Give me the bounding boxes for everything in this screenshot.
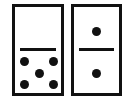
pip <box>92 69 101 78</box>
domino-left <box>12 4 64 96</box>
domino-right <box>71 4 122 96</box>
pip <box>20 57 29 66</box>
domino-left-divider <box>20 48 56 51</box>
pip <box>49 80 58 89</box>
pip <box>92 27 101 36</box>
pip <box>49 57 58 66</box>
pip <box>20 80 29 89</box>
domino-right-divider <box>79 48 114 51</box>
pip <box>35 69 44 78</box>
